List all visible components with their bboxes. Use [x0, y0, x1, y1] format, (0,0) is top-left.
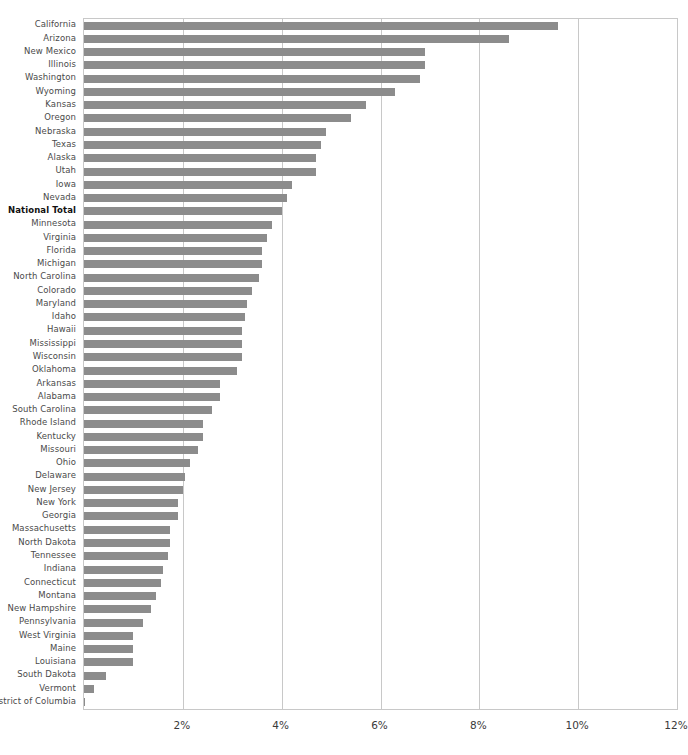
bar-row — [84, 46, 677, 59]
category-label: Oregon — [0, 111, 80, 124]
category-label: Michigan — [0, 257, 80, 270]
bar-row — [84, 682, 677, 695]
category-label: Vermont — [0, 681, 80, 694]
category-label: Virginia — [0, 230, 80, 243]
category-label: Louisiana — [0, 655, 80, 668]
plot-area — [83, 18, 678, 710]
category-label: New Hampshire — [0, 602, 80, 615]
category-label: South Dakota — [0, 668, 80, 681]
bar — [84, 459, 190, 467]
bar-row — [84, 59, 677, 72]
chart-title — [0, 0, 682, 1]
bar-row — [84, 656, 677, 669]
category-label: Montana — [0, 588, 80, 601]
bar-row — [84, 483, 677, 496]
bar — [84, 539, 170, 547]
x-tick-label: 10% — [565, 719, 588, 731]
x-tick-label: 6% — [371, 719, 388, 731]
category-label: North Carolina — [0, 270, 80, 283]
category-label: Minnesota — [0, 217, 80, 230]
category-label: Missouri — [0, 443, 80, 456]
bar-row — [84, 245, 677, 258]
bar — [84, 672, 106, 680]
category-label: South Carolina — [0, 403, 80, 416]
bar-row — [84, 444, 677, 457]
bar-row — [84, 32, 677, 45]
bar-row — [84, 178, 677, 191]
bar-row — [84, 629, 677, 642]
category-label: District of Columbia — [0, 695, 80, 708]
category-label: Oklahoma — [0, 363, 80, 376]
bar — [84, 75, 420, 83]
category-label: Delaware — [0, 469, 80, 482]
category-label: Alabama — [0, 389, 80, 402]
category-label: Arkansas — [0, 376, 80, 389]
bar — [84, 61, 425, 69]
category-label: National Total — [0, 204, 80, 217]
bar-row — [84, 191, 677, 204]
bar — [84, 141, 321, 149]
bar-row — [84, 165, 677, 178]
bar — [84, 552, 168, 560]
bar — [84, 247, 262, 255]
category-label: Georgia — [0, 509, 80, 522]
x-tick-label: 8% — [470, 719, 487, 731]
bar — [84, 181, 292, 189]
bar — [84, 499, 178, 507]
bar-row — [84, 576, 677, 589]
bar — [84, 22, 558, 30]
bar-row — [84, 497, 677, 510]
bar — [84, 154, 316, 162]
category-label: Maine — [0, 641, 80, 654]
bar — [84, 274, 259, 282]
bar-row — [84, 231, 677, 244]
bar — [84, 114, 351, 122]
bar — [84, 380, 220, 388]
bar-row — [84, 138, 677, 151]
bar-row — [84, 284, 677, 297]
bar-row — [84, 311, 677, 324]
bar-row — [84, 669, 677, 682]
category-label: Mississippi — [0, 336, 80, 349]
bar — [84, 658, 133, 666]
category-label: New York — [0, 496, 80, 509]
category-axis-labels: CaliforniaArizonaNew MexicoIllinoisWashi… — [0, 18, 80, 708]
category-label: Nebraska — [0, 124, 80, 137]
bar-row — [84, 205, 677, 218]
bar — [84, 393, 220, 401]
category-label: Indiana — [0, 562, 80, 575]
bar — [84, 486, 183, 494]
x-tick-label: 4% — [272, 719, 289, 731]
bar-row — [84, 125, 677, 138]
x-tick-label: 12% — [664, 719, 687, 731]
bar-row — [84, 377, 677, 390]
bar — [84, 207, 282, 215]
x-tick-label: 2% — [173, 719, 190, 731]
bar-row — [84, 99, 677, 112]
bar — [84, 168, 316, 176]
bar — [84, 35, 509, 43]
bar — [84, 512, 178, 520]
category-label: Connecticut — [0, 575, 80, 588]
bar-row — [84, 470, 677, 483]
bar — [84, 526, 170, 534]
bar — [84, 579, 161, 587]
category-label: West Virginia — [0, 628, 80, 641]
category-label: California — [0, 18, 80, 31]
bar-row — [84, 337, 677, 350]
bar-row — [84, 298, 677, 311]
bar-row — [84, 218, 677, 231]
bar-row — [84, 457, 677, 470]
category-label: Arizona — [0, 31, 80, 44]
category-label: Tennessee — [0, 549, 80, 562]
bar — [84, 420, 203, 428]
bar — [84, 685, 94, 693]
category-label: Iowa — [0, 177, 80, 190]
bar-row — [84, 510, 677, 523]
bar-row — [84, 603, 677, 616]
bar-row — [84, 404, 677, 417]
bar — [84, 88, 395, 96]
category-label: Kansas — [0, 98, 80, 111]
bar-series — [84, 19, 677, 709]
category-label: Hawaii — [0, 323, 80, 336]
